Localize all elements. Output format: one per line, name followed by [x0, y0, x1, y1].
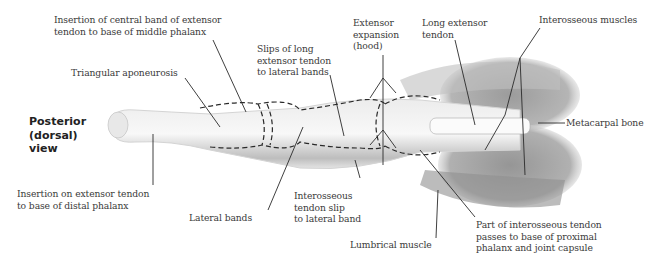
label-lumbrical-muscle: Lumbrical muscle [350, 239, 432, 251]
label-interosseous-tendon-part: Part of interosseous tendon passes to ba… [476, 219, 602, 254]
label-lateral-bands: Lateral bands [189, 212, 252, 224]
view-title: Posterior (dorsal) view [29, 115, 86, 156]
label-interosseous-muscles: Interosseous muscles [539, 14, 637, 26]
label-central-band-insertion: Insertion of central band of extensor te… [54, 14, 221, 37]
label-long-extensor-tendon: Long extensor tendon [422, 17, 487, 40]
label-slips-long-extensor: Slips of long extensor tendon to lateral… [257, 43, 331, 78]
label-metacarpal-bone: Metacarpal bone [566, 117, 644, 129]
label-distal-insertion: Insertion on extensor tendon to base of … [17, 188, 149, 211]
label-triangular-aponeurosis: Triangular aponeurosis [71, 67, 178, 79]
metacarpal-bone [430, 118, 530, 134]
label-interosseous-tendon-slip: Interosseous tendon slip to lateral band [294, 190, 361, 225]
label-extensor-expansion: Extensor expansion (hood) [353, 17, 399, 52]
